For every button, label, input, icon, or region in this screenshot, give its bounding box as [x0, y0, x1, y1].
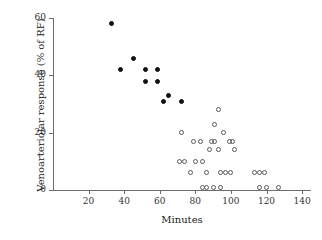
data-point — [218, 185, 223, 190]
data-point — [200, 159, 205, 164]
data-point — [198, 139, 203, 144]
x-tick-label: 100 — [216, 197, 246, 206]
data-point — [212, 139, 217, 144]
y-tick-mark — [49, 18, 53, 19]
data-point — [193, 159, 198, 164]
data-point — [218, 170, 223, 175]
x-tick-mark — [302, 190, 303, 194]
data-point — [216, 147, 221, 152]
data-point — [179, 99, 184, 104]
data-point — [177, 159, 182, 164]
data-point — [252, 170, 257, 175]
y-axis-line — [53, 18, 54, 191]
x-tick-label: 80 — [180, 197, 210, 206]
data-point — [221, 130, 226, 135]
data-point — [131, 56, 136, 61]
data-point — [118, 67, 123, 72]
data-point — [212, 122, 217, 127]
data-point — [155, 79, 160, 84]
data-point — [179, 130, 184, 135]
x-tick-mark — [89, 190, 90, 194]
data-point — [143, 79, 148, 84]
data-point — [155, 67, 160, 72]
data-point — [230, 139, 235, 144]
scatter-plot-figure: 0204060 20406080100120140 Minutes Venoar… — [0, 0, 322, 240]
data-point — [257, 185, 262, 190]
data-point — [191, 139, 196, 144]
y-tick-mark — [49, 75, 53, 76]
data-point — [109, 21, 114, 26]
data-point — [264, 185, 269, 190]
x-tick-mark — [231, 190, 232, 194]
data-point — [262, 170, 267, 175]
y-tick-mark — [49, 190, 53, 191]
y-axis-label-wrapper: Venoarteriolar response (% of RF) — [14, 0, 28, 200]
data-point — [211, 185, 216, 190]
x-tick-label: 60 — [145, 197, 175, 206]
data-point — [228, 170, 233, 175]
data-point — [188, 170, 193, 175]
data-point — [166, 93, 171, 98]
x-tick-label: 20 — [74, 197, 104, 206]
data-point — [143, 67, 148, 72]
data-point — [223, 170, 228, 175]
x-tick-mark — [195, 190, 196, 194]
data-point — [161, 99, 166, 104]
x-tick-mark — [267, 190, 268, 194]
y-axis-label: Venoarteriolar response (% of RF) — [36, 10, 46, 200]
data-point — [276, 185, 281, 190]
x-tick-mark — [124, 190, 125, 194]
data-point — [204, 170, 209, 175]
x-tick-label: 40 — [109, 197, 139, 206]
plot-area: 0204060 20406080100120140 — [0, 0, 322, 240]
data-point — [232, 147, 237, 152]
data-point — [216, 107, 221, 112]
data-point — [207, 147, 212, 152]
x-axis-line — [53, 190, 311, 191]
x-tick-label: 140 — [287, 197, 317, 206]
data-point — [182, 159, 187, 164]
x-axis-label: Minutes — [53, 215, 311, 225]
data-point — [257, 170, 262, 175]
y-tick-mark — [49, 133, 53, 134]
data-point — [204, 185, 209, 190]
x-tick-label: 120 — [252, 197, 282, 206]
x-tick-mark — [160, 190, 161, 194]
